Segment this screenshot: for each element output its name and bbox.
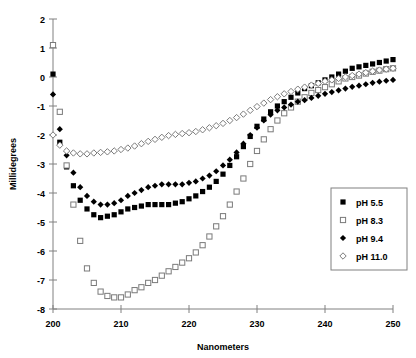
marker-open-diamond (186, 129, 192, 135)
marker-filled-diamond (186, 180, 192, 186)
marker-open-square (316, 87, 321, 92)
series-ph-11-0 (50, 65, 396, 157)
marker-open-square (166, 269, 171, 274)
marker-open-square (186, 256, 191, 261)
marker-open-square (139, 285, 144, 290)
marker-filled-square (98, 215, 103, 220)
marker-open-diamond (138, 141, 144, 147)
marker-filled-square (207, 185, 212, 190)
marker-filled-square (125, 206, 130, 211)
marker-open-diamond (70, 150, 76, 156)
marker-filled-diamond (329, 89, 335, 95)
legend-item-label: pH 5.5 (356, 198, 383, 208)
marker-filled-square (282, 99, 287, 104)
marker-filled-square (118, 209, 123, 214)
legend-item-label: pH 11.0 (356, 252, 388, 262)
marker-open-square (50, 43, 55, 48)
marker-filled-diamond (370, 80, 376, 86)
marker-filled-diamond (322, 91, 328, 97)
marker-filled-diamond (376, 79, 382, 85)
marker-open-diamond (97, 149, 103, 155)
marker-filled-diamond (152, 183, 158, 189)
marker-filled-diamond (227, 157, 233, 163)
marker-filled-diamond (336, 87, 342, 93)
y-tick-label: 2 (40, 15, 45, 25)
marker-open-square (173, 264, 178, 269)
marker-filled-square (159, 202, 164, 207)
scatter-chart: 210-1-2-3-4-5-6-7-8 200210220230240250 p… (0, 0, 416, 358)
marker-open-square (125, 292, 130, 297)
marker-open-diamond (193, 128, 199, 134)
marker-open-square (71, 202, 76, 207)
marker-filled-diamond (200, 175, 206, 181)
marker-open-square (268, 127, 273, 132)
x-axis-title: Nanometers (197, 342, 249, 352)
x-tick-label: 230 (249, 319, 264, 329)
marker-filled-square (193, 193, 198, 198)
marker-filled-diamond (138, 187, 144, 193)
marker-filled-diamond (50, 91, 56, 97)
x-tick-label: 250 (385, 319, 400, 329)
y-tick-label: -1 (37, 102, 45, 112)
marker-filled-diamond (206, 173, 212, 179)
marker-open-square (64, 163, 69, 168)
marker-filled-diamond (193, 178, 199, 184)
marker-filled-square (356, 64, 361, 69)
chart-legend: pH 5.5pH 8.3pH 9.4pH 11.0 (331, 188, 407, 270)
marker-filled-diamond (342, 86, 348, 92)
marker-open-square (309, 90, 314, 95)
marker-open-diamond (77, 151, 83, 157)
marker-open-square (193, 250, 198, 255)
marker-open-square (200, 243, 205, 248)
marker-filled-diamond (179, 181, 185, 187)
marker-filled-diamond (166, 181, 172, 187)
marker-open-diamond (152, 136, 158, 142)
marker-open-diamond (165, 132, 171, 138)
marker-filled-square (139, 203, 144, 208)
marker-filled-diamond (281, 104, 287, 110)
marker-filled-square (105, 214, 110, 219)
marker-filled-diamond (315, 93, 321, 99)
x-axis: 200210220230240250 (45, 305, 400, 329)
marker-open-diamond (131, 143, 137, 149)
marker-open-diamond (206, 125, 212, 131)
marker-open-diamond (84, 151, 90, 157)
marker-filled-square (214, 179, 219, 184)
marker-open-diamond (281, 91, 287, 97)
marker-filled-square (390, 57, 395, 62)
marker-open-diamond (261, 100, 267, 106)
chart-container: 210-1-2-3-4-5-6-7-8 200210220230240250 p… (0, 0, 416, 358)
marker-open-square (207, 234, 212, 239)
marker-open-diamond (104, 149, 110, 155)
marker-filled-diamond (98, 202, 104, 208)
x-tick-label: 200 (45, 319, 60, 329)
x-tick-label: 210 (113, 319, 128, 329)
marker-filled-square (84, 206, 89, 211)
marker-filled-diamond (77, 184, 83, 190)
marker-filled-square (112, 212, 117, 217)
marker-filled-square (384, 58, 389, 63)
marker-filled-diamond (213, 168, 219, 174)
marker-open-square (261, 137, 266, 142)
marker-open-diamond (91, 150, 97, 156)
marker-filled-diamond (104, 202, 110, 208)
marker-open-square (118, 295, 123, 300)
y-tick-label: -2 (37, 131, 45, 141)
marker-filled-diamond (145, 184, 151, 190)
y-tick-label: -4 (37, 189, 45, 199)
marker-filled-square (200, 189, 205, 194)
marker-filled-square (50, 72, 55, 77)
marker-open-square (152, 277, 157, 282)
marker-open-square (220, 214, 225, 219)
marker-open-square (340, 217, 345, 222)
marker-filled-square (370, 61, 375, 66)
x-tick-label: 220 (181, 319, 196, 329)
marker-filled-square (91, 212, 96, 217)
marker-open-diamond (288, 88, 294, 94)
marker-open-square (254, 148, 259, 153)
legend-item-label: pH 8.3 (356, 216, 383, 226)
marker-open-diamond (63, 148, 69, 154)
marker-filled-square (146, 202, 151, 207)
marker-filled-square (180, 199, 185, 204)
marker-open-square (132, 288, 137, 293)
